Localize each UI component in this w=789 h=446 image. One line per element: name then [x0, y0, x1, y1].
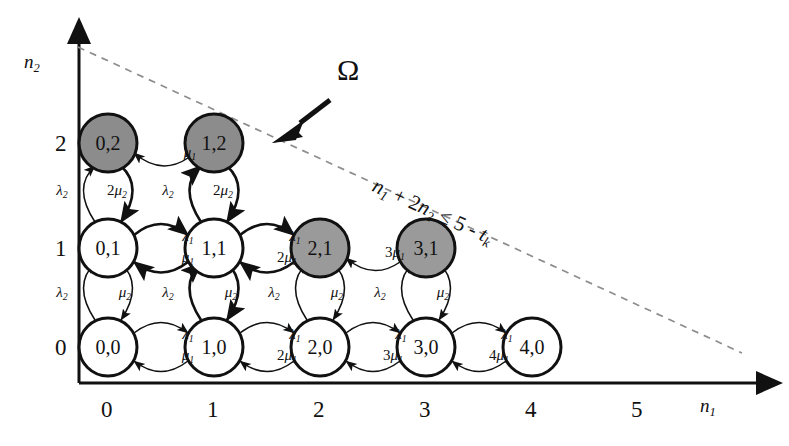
rate-symbol: μ: [393, 244, 401, 260]
rate-symbol: λ: [374, 284, 381, 300]
figure-canvas: 0,0 1,0 2,0 3,0 4,0 0,1 1,1 2,1 3,1 0,2 …: [0, 0, 789, 446]
x-tick-2: 2: [313, 398, 325, 421]
rate-symbol: μ: [225, 284, 233, 300]
rate-symbol: λ: [268, 284, 275, 300]
x-tick-1: 1: [207, 398, 219, 421]
rate-subscript: 1: [292, 354, 297, 365]
y-axis-label: n2: [24, 52, 40, 71]
rate-subscript: 2: [228, 189, 233, 200]
rate-coefficient: 2: [213, 182, 221, 198]
rate-symbol: μ: [331, 284, 339, 300]
rate-subscript: 1: [508, 333, 513, 344]
node-label-0-2: 0,2: [96, 133, 121, 153]
diagram-svg: [0, 0, 789, 446]
rate-coefficient: 4: [489, 347, 497, 363]
rate-label-r0_m1_d: 4μ1: [489, 348, 509, 363]
rate-coefficient: 2: [277, 347, 285, 363]
rate-label-r0_l1_d: λ1: [501, 327, 512, 342]
rate-subscript: 2: [126, 291, 131, 302]
rate-symbol: λ: [182, 326, 189, 342]
node-label-1-1: 1,1: [202, 238, 227, 258]
rate-symbol: λ: [162, 182, 169, 198]
x-axis-label: n1: [700, 396, 716, 415]
rate-label-v12_l2_a: λ2: [56, 183, 67, 198]
rate-subscript: 1: [398, 354, 403, 365]
rate-symbol: λ: [289, 326, 296, 342]
rate-symbol: λ: [501, 326, 508, 342]
rate-label-v01_m2_c: μ2: [331, 285, 343, 300]
rate-subscript: 2: [232, 291, 237, 302]
rate-label-v01_l2_a: λ2: [56, 285, 67, 300]
rate-coefficient: 2: [107, 182, 115, 198]
node-label-3-0: 3,0: [414, 337, 439, 357]
rate-label-r0_l1_a: λ1: [182, 327, 193, 342]
rate-subscript: 1: [191, 151, 196, 162]
rate-label-r0_l1_c: λ1: [395, 327, 406, 342]
rate-subscript: 2: [169, 189, 174, 200]
rate-symbol: λ: [182, 228, 189, 244]
rate-symbol: μ: [437, 284, 445, 300]
x-axis-label-sub: 1: [710, 405, 716, 419]
omega-region-label: Ω: [337, 55, 359, 85]
x-tick-4: 4: [525, 398, 537, 421]
rate-subscript: 1: [189, 354, 194, 365]
rate-subscript: 1: [504, 354, 509, 365]
rate-symbol: μ: [184, 144, 192, 160]
x-tick-0: 0: [101, 398, 113, 421]
y-axis-label-base: n: [24, 51, 34, 72]
rate-subscript: 1: [189, 256, 194, 267]
rate-label-r2_m1_a: μ1: [184, 145, 196, 160]
rate-subscript: 2: [444, 291, 449, 302]
rate-label-r1_l1_b: λ1: [289, 229, 300, 244]
rate-label-v01_l2_c: λ2: [268, 285, 279, 300]
rate-symbol: μ: [115, 182, 123, 198]
rate-symbol: μ: [391, 347, 399, 363]
rate-symbol: μ: [285, 249, 293, 265]
rate-symbol: μ: [182, 347, 190, 363]
node-label-2-1: 2,1: [308, 238, 333, 258]
node-label-3-1: 3,1: [414, 238, 439, 258]
node-label-4-0: 4,0: [520, 337, 545, 357]
rate-subscript: 2: [381, 291, 386, 302]
rate-label-r0_m1_a: μ1: [182, 348, 194, 363]
node-label-1-2: 1,2: [202, 133, 227, 153]
rate-subscript: 1: [402, 333, 407, 344]
rate-label-v12_l2_b: λ2: [162, 183, 173, 198]
rate-label-v12_m2_a: 2μ2: [107, 183, 127, 198]
rate-symbol: λ: [56, 182, 63, 198]
rate-symbol: μ: [285, 347, 293, 363]
rate-coefficient: 2: [277, 249, 285, 265]
rate-symbol: λ: [162, 284, 169, 300]
rate-coefficient: 3: [383, 347, 391, 363]
y-tick-1: 1: [55, 237, 67, 260]
x-tick-5: 5: [631, 398, 643, 421]
rate-symbol: μ: [497, 347, 505, 363]
rate-symbol: μ: [182, 249, 190, 265]
rate-symbol: λ: [289, 228, 296, 244]
rate-symbol: μ: [221, 182, 229, 198]
rate-subscript: 2: [122, 189, 127, 200]
edge-row1: [134, 224, 400, 273]
rate-label-v01_l2_b: λ2: [162, 285, 173, 300]
rate-label-v01_l2_d: λ2: [374, 285, 385, 300]
rate-subscript: 1: [292, 256, 297, 267]
x-axis-label-base: n: [700, 395, 710, 416]
rate-label-v12_m2_b: 2μ2: [213, 183, 233, 198]
node-label-2-0: 2,0: [308, 337, 333, 357]
rate-label-r0_m1_c: 3μ1: [383, 348, 403, 363]
rate-subscript: 1: [296, 235, 301, 246]
rate-label-r1_l1_a: λ1: [182, 229, 193, 244]
rate-label-v01_m2_a: μ2: [119, 285, 131, 300]
node-label-1-0: 1,0: [202, 337, 227, 357]
rate-label-r1_m1_a: μ1: [182, 250, 194, 265]
omega-pointer: [272, 100, 330, 143]
rate-label-r1_m1_c: 3μ1: [385, 245, 405, 260]
rate-symbol: μ: [119, 284, 127, 300]
node-label-0-0: 0,0: [96, 337, 121, 357]
rate-subscript: 1: [189, 333, 194, 344]
rate-subscript: 1: [296, 333, 301, 344]
node-label-0-1: 0,1: [96, 238, 121, 258]
rate-label-r0_l1_b: λ1: [289, 327, 300, 342]
rate-subscript: 1: [400, 251, 405, 262]
rate-subscript: 1: [189, 235, 194, 246]
